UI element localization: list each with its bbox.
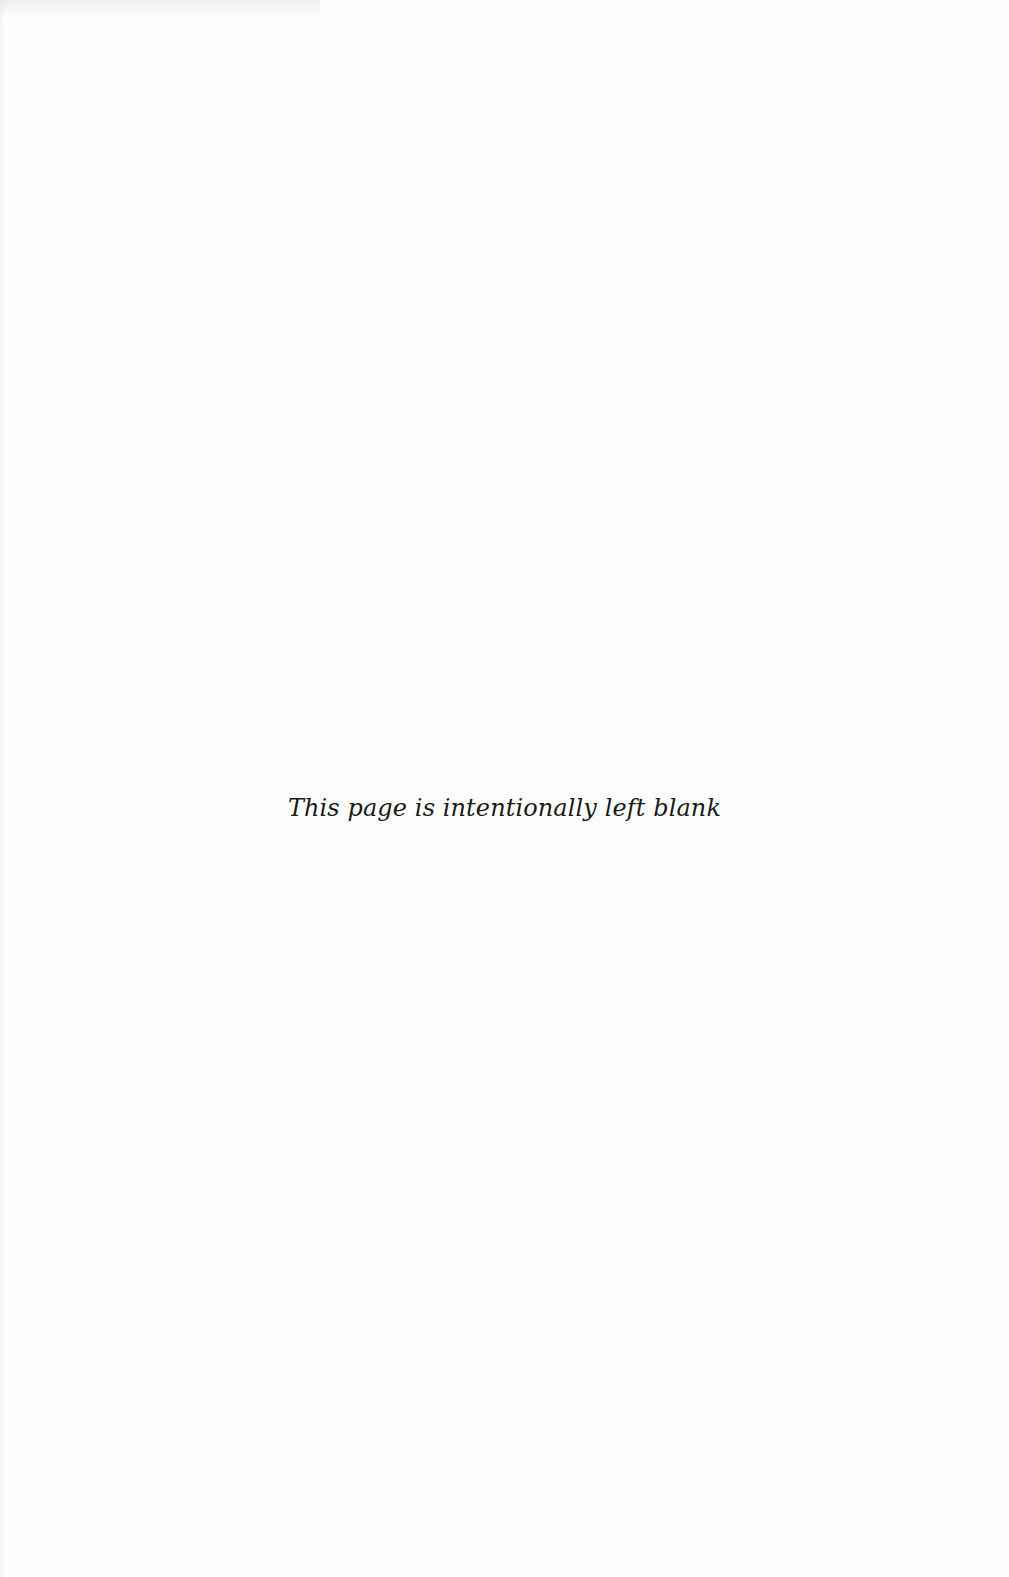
blank-page-notice: This page is intentionally left blank — [0, 790, 1009, 826]
document-page: This page is intentionally left blank — [0, 0, 1009, 1577]
scan-edge-artifact-left — [0, 0, 6, 1577]
scan-edge-artifact-top — [0, 0, 320, 18]
